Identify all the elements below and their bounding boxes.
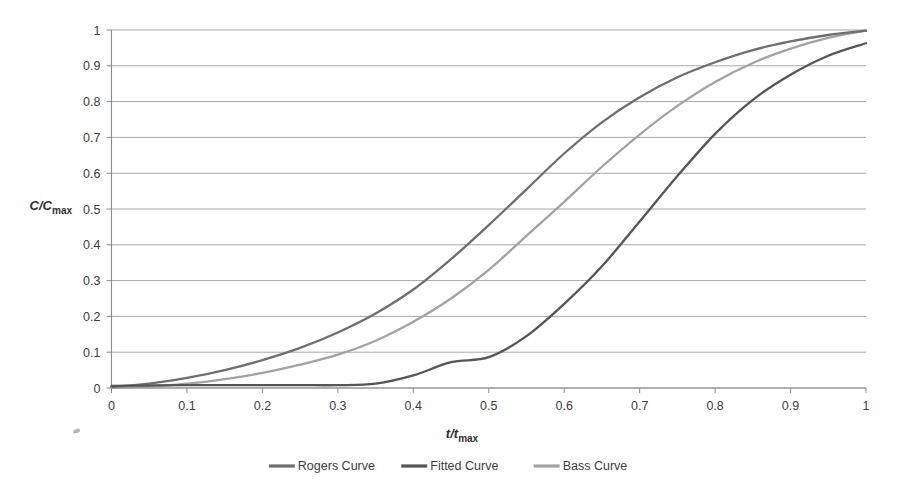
- y-tick-label: 0.8: [83, 95, 100, 109]
- y-tick-label: 0.5: [83, 203, 100, 217]
- x-tick-label: 0.4: [405, 399, 422, 413]
- legend-item[interactable]: Bass Curve: [534, 459, 628, 473]
- gridlines: [112, 30, 867, 388]
- x-axis-title: t/tmax: [446, 426, 479, 444]
- legend-label: Fitted Curve: [430, 459, 498, 473]
- y-tick-label: 0.1: [83, 346, 100, 360]
- x-tick-label: 0.8: [706, 399, 723, 413]
- y-tick-label: 0.2: [83, 310, 100, 324]
- x-tick-label: 0.1: [178, 399, 195, 413]
- y-tick-label: 0.6: [83, 167, 100, 181]
- y-tick-label: 0: [94, 382, 101, 396]
- x-tick-label: 1: [863, 399, 870, 413]
- x-tick-label: 0.5: [480, 399, 497, 413]
- axis-tick-marks: [107, 30, 867, 393]
- series-line: [112, 43, 867, 386]
- legend-item[interactable]: Rogers Curve: [269, 459, 375, 473]
- y-tick-label: 0.7: [83, 131, 100, 145]
- legend-label: Bass Curve: [563, 459, 628, 473]
- x-tick-label: 0.9: [782, 399, 799, 413]
- x-tick-label: 0: [108, 399, 115, 413]
- y-tick-label: 0.9: [83, 59, 100, 73]
- y-axis-title: C/Cmax: [30, 198, 73, 216]
- x-tick-label: 0.6: [556, 399, 573, 413]
- chart-container: 00.10.20.30.40.50.60.70.80.91 00.10.20.3…: [0, 0, 897, 493]
- legend-item[interactable]: Fitted Curve: [401, 459, 498, 473]
- x-tick-label: 0.2: [254, 399, 271, 413]
- y-tick-label: 0.4: [83, 238, 100, 252]
- chart-legend: Rogers CurveFitted CurveBass Curve: [269, 459, 627, 473]
- x-tick-label: 0.7: [631, 399, 648, 413]
- legend-label: Rogers Curve: [298, 459, 375, 473]
- y-axis-tick-labels: 00.10.20.30.40.50.60.70.80.91: [83, 24, 100, 396]
- y-tick-label: 1: [94, 24, 101, 38]
- x-axis-tick-labels: 00.10.20.30.40.50.60.70.80.91: [108, 399, 870, 413]
- y-tick-label: 0.3: [83, 274, 100, 288]
- x-tick-label: 0.3: [329, 399, 346, 413]
- line-chart: 00.10.20.30.40.50.60.70.80.91 00.10.20.3…: [0, 0, 897, 493]
